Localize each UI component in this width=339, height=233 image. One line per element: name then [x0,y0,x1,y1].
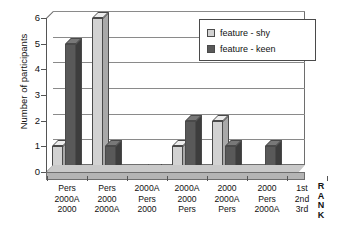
y-axis-tick-label: 1 [24,141,40,151]
y-axis-tick-label: 5 [24,39,40,49]
chart-floor [46,172,305,180]
y-axis-title: Number of participants [18,7,29,157]
x-axis-tick [287,176,288,181]
x-axis-label-line: 2000 [243,183,291,194]
y-axis-tick [41,18,46,19]
legend-swatch-keen [207,45,215,53]
bar-keen-3 [185,121,196,172]
bar-shy-1 [92,18,103,172]
y-axis-tick-label: 0 [24,167,40,177]
bar-front-face [65,44,76,172]
x-axis-tick [87,176,88,181]
bar-front-face [212,121,223,172]
bar-front-face [185,121,196,172]
y-axis-tick-label: 6 [24,13,40,23]
x-axis-tick [247,176,248,181]
x-axis-tick [127,176,128,181]
legend-item-shy: feature - shy [207,25,315,41]
rank-value: 1st [289,183,315,194]
x-axis-tick [327,176,328,181]
bar-side-face [196,115,202,172]
bar-side-face [76,38,82,172]
bar-chart: Number of participants 0123456 Pers2000A… [0,0,339,233]
gridline [53,62,305,63]
y-axis-tick [41,121,46,122]
rank-values: 1st2nd3rd [289,183,315,215]
y-axis-tick [41,69,46,70]
y-axis-tick-label: 4 [24,64,40,74]
legend-swatch-shy [207,29,215,37]
rank-label: RANK [314,182,328,220]
x-axis-label-line: 2000A [243,204,291,215]
gridline [53,88,305,89]
legend-label-shy: feature - shy [220,28,270,38]
y-axis-tick-label: 3 [24,90,40,100]
chart-legend: feature - shy feature - keen [199,19,316,61]
x-axis-label-line: Pers [243,194,291,205]
x-axis-label-5: 2000Pers2000A [243,183,291,215]
legend-item-keen: feature - keen [207,41,315,57]
y-axis-tick [41,44,46,45]
gridline [53,114,305,115]
bar-front-face [92,18,103,172]
rank-label-letter: K [314,211,328,221]
x-axis-tick [167,176,168,181]
y-axis-tick [41,95,46,96]
rank-value: 2nd [289,194,315,205]
bar-keen-0 [65,44,76,172]
bar-shy-4 [212,121,223,172]
legend-label-keen: feature - keen [220,44,276,54]
x-axis-tick [207,176,208,181]
x-axis-tick [47,176,48,181]
y-axis-tick-label: 2 [24,116,40,126]
rank-value: 3rd [289,204,315,215]
y-axis-tick [41,146,46,147]
y-axis-line [46,18,47,172]
gridline [53,11,305,12]
